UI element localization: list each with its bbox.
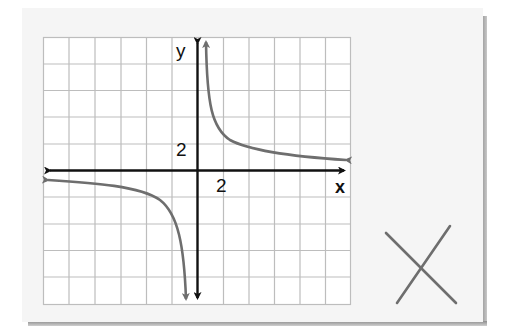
hyperbola-graph: y 2 2 x [0,0,511,334]
x-axis-label: x [335,177,345,197]
x-tick-label: 2 [216,175,227,196]
cross-mark-icon [386,226,456,303]
y-axis-label: y [176,40,186,61]
y-tick-label: 2 [176,139,187,160]
